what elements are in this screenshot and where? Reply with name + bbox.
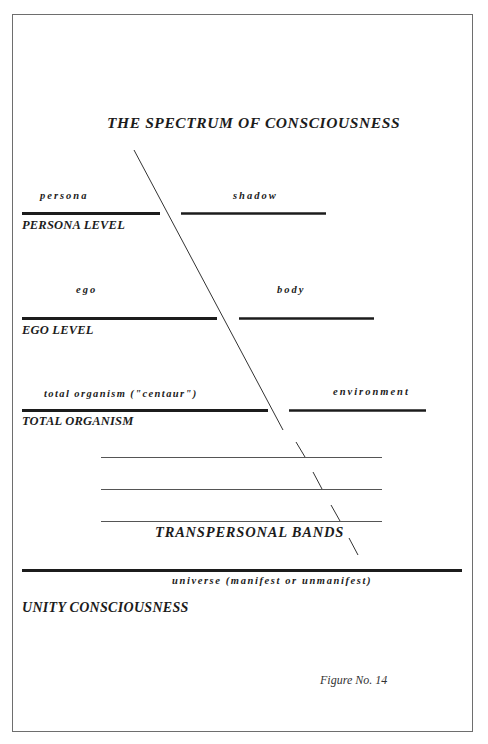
total-organism-heading: TOTAL ORGANISM: [22, 414, 134, 429]
persona-label: persona: [40, 190, 88, 201]
unity-consciousness-heading: UNITY CONSCIOUSNESS: [22, 600, 189, 616]
figure-caption: Figure No. 14: [320, 673, 387, 688]
transpersonal-bands-label: TRANSPERSONAL BANDS: [155, 524, 344, 541]
boundary-dash-1: [296, 442, 305, 457]
ego-level-heading: EGO LEVEL: [22, 323, 94, 338]
persona-level-heading: PERSONA LEVEL: [22, 218, 125, 233]
boundary-dash-4: [349, 538, 358, 555]
diagram-title: THE SPECTRUM OF CONSCIOUSNESS: [107, 114, 400, 132]
environment-label: environment: [333, 386, 410, 397]
ego-label: ego: [76, 284, 97, 295]
spectrum-diagram: [0, 0, 488, 744]
boundary-dash-2: [313, 472, 322, 489]
total-organism-label: total organism ("centaur"): [44, 388, 198, 399]
boundary-dash-3: [331, 505, 340, 521]
shadow-label: shadow: [233, 190, 278, 201]
body-label: body: [277, 284, 305, 295]
universe-label: universe (manifest or unmanifest): [172, 575, 372, 586]
